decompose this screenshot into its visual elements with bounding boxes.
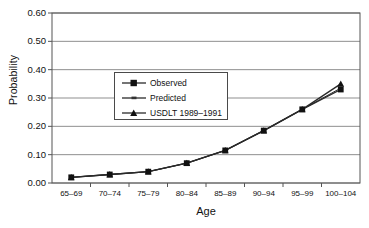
- triangle-marker-icon: [121, 108, 147, 118]
- x-tick-label: 100–104: [317, 189, 365, 198]
- line-marker-icon: [121, 93, 147, 103]
- square-marker-icon: [121, 78, 147, 88]
- legend-label: Predicted: [150, 93, 186, 103]
- legend-label: USDLT 1989–1991: [150, 108, 222, 118]
- legend-item-usdlt: USDLT 1989–1991: [121, 106, 222, 120]
- data-point-marker: [337, 80, 344, 86]
- legend-label: Observed: [150, 78, 187, 88]
- probability-by-age-chart: Probability 0.000.100.200.300.400.500.60…: [0, 0, 369, 228]
- data-point-marker: [338, 87, 344, 93]
- chart-legend: Observed Predicted USDLT 1989–1991: [114, 72, 228, 120]
- legend-item-observed: Observed: [121, 76, 187, 90]
- x-axis-title: Age: [52, 205, 360, 217]
- legend-item-predicted: Predicted: [121, 91, 186, 105]
